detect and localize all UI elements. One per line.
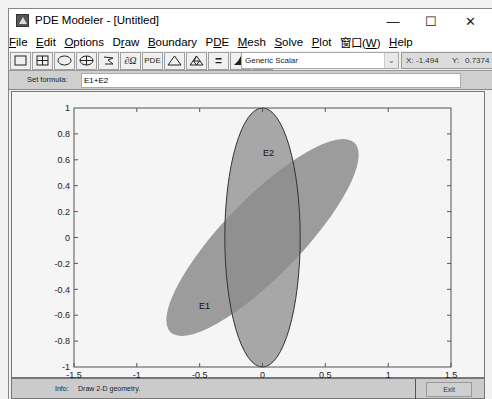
ellipse-icon — [57, 55, 72, 66]
maximize-button[interactable]: ☐ — [412, 9, 450, 33]
solve-button[interactable]: = — [208, 52, 229, 70]
x-coord-value: -1.494 — [416, 53, 439, 68]
status-divider — [415, 379, 416, 399]
y-tick-label: -0.2 — [54, 259, 70, 269]
application-select[interactable]: Generic Scalar ⌄ — [241, 52, 399, 69]
rectangle-icon — [14, 55, 27, 66]
polygon-icon — [102, 55, 115, 66]
menu-mesh[interactable]: Mesh — [238, 36, 266, 48]
shape-label-e1: E1 — [199, 301, 210, 311]
shape-label-e2: E2 — [263, 148, 274, 158]
solve-icon: = — [215, 54, 222, 68]
window-title: PDE Modeler - [Untitled] — [35, 14, 159, 26]
refine-mesh-icon — [189, 55, 204, 66]
minimize-button[interactable]: — — [374, 9, 412, 33]
boundary-mode-button[interactable]: ∂Ω — [120, 52, 141, 70]
menu-help[interactable]: Help — [389, 36, 413, 48]
y-tick-labels: 1 0.8 0.6 0.4 0.2 0 -0.2 -0.4 -0.6 -0.8 … — [54, 103, 70, 372]
pde-spec-button[interactable]: PDE — [142, 52, 163, 70]
geometry-canvas[interactable]: E2 E1 — [11, 91, 485, 378]
menu-pde[interactable]: PDE — [206, 36, 230, 48]
menu-boundary[interactable]: Boundary — [148, 36, 197, 48]
application-select-value: Generic Scalar — [245, 56, 298, 65]
draw-rectangle-button[interactable] — [10, 52, 31, 70]
y-tick-label: 0.6 — [57, 155, 70, 165]
pde-modeler-window: PDE Modeler - [Untitled] — ☐ ✕ File Edit… — [8, 8, 492, 399]
exit-button[interactable]: Exit — [426, 382, 472, 397]
menu-draw[interactable]: Draw — [113, 36, 140, 48]
cursor-coordinates: X: -1.494 Y: 0.7374 — [401, 52, 492, 69]
y-tick-label: -0.6 — [54, 310, 70, 320]
init-mesh-icon — [167, 55, 182, 66]
menu-file[interactable]: File — [9, 36, 28, 48]
y-tick-label: -0.4 — [54, 285, 70, 295]
chevron-down-icon[interactable]: ⌄ — [384, 53, 398, 68]
init-mesh-button[interactable] — [164, 52, 185, 70]
y-tick-label: 0 — [65, 233, 70, 243]
axes: E2 E1 — [12, 92, 486, 379]
info-text: Draw 2-D geometry. — [78, 385, 140, 392]
pde-spec-icon: PDE — [144, 56, 160, 65]
draw-ellipse-button[interactable] — [54, 52, 75, 70]
close-button[interactable]: ✕ — [451, 9, 489, 33]
draw-polygon-button[interactable] — [98, 52, 119, 70]
menu-options[interactable]: Options — [64, 36, 104, 48]
menu-edit[interactable]: Edit — [36, 36, 56, 48]
draw-rectangle-center-button[interactable] — [32, 52, 53, 70]
y-tick-label: 0.2 — [57, 207, 70, 217]
menu-bar: File Edit Options Draw Boundary PDE Mesh… — [9, 33, 492, 51]
matlab-app-icon — [16, 14, 29, 27]
rectangle-center-icon — [36, 55, 49, 66]
y-coord-label: Y: — [452, 53, 459, 68]
y-tick-label: 0.8 — [57, 129, 70, 139]
ellipse-center-icon — [79, 55, 94, 66]
x-coord-label: X: — [406, 53, 414, 68]
y-coord-value: 0.7374 — [465, 53, 489, 68]
boundary-mode-icon: ∂Ω — [124, 55, 136, 66]
y-tick-label: 1 — [65, 103, 70, 113]
menu-window[interactable]: 窗口(W) — [340, 34, 381, 50]
title-bar: PDE Modeler - [Untitled] — ☐ ✕ — [9, 9, 492, 33]
set-formula-label: Set formula: — [27, 75, 67, 84]
menu-plot[interactable]: Plot — [312, 36, 332, 48]
menu-solve[interactable]: Solve — [274, 36, 303, 48]
set-formula-input[interactable] — [81, 73, 461, 88]
refine-mesh-button[interactable] — [186, 52, 207, 70]
y-tick-label: -0.8 — [54, 336, 70, 346]
status-bar: Info: Draw 2-D geometry. Exit — [11, 378, 485, 399]
y-tick-label: 0.4 — [57, 181, 70, 191]
shape-e2[interactable] — [225, 108, 300, 367]
draw-ellipse-center-button[interactable] — [76, 52, 97, 70]
info-label: Info: — [55, 385, 69, 392]
toolbar: ∂Ω PDE = Generic Scalar ⌄ X: -1.494 Y: 0… — [9, 51, 492, 71]
formula-bar: Set formula: — [9, 71, 492, 90]
